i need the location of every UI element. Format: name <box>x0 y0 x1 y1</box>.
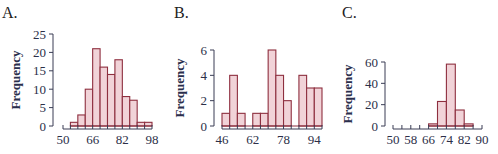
histogram-bar <box>307 88 315 126</box>
histogram-bar <box>222 113 230 126</box>
histogram-bar <box>108 74 115 126</box>
y-tick-label: 15 <box>33 63 46 78</box>
y-tick-label: 2 <box>201 93 208 108</box>
y-axis-label: Frequency <box>8 50 23 109</box>
histogram-bar <box>446 64 455 126</box>
y-axis-label: Frequency <box>340 64 355 123</box>
x-tick-label: 82 <box>116 132 129 147</box>
histogram-bar <box>455 110 464 126</box>
histogram-bar <box>276 75 284 126</box>
x-tick-label: 94 <box>308 132 322 147</box>
y-tick-label: 0 <box>201 119 208 134</box>
histogram-bar <box>145 122 152 126</box>
x-tick-label: 82 <box>458 132 471 147</box>
histogram-bar <box>268 50 276 126</box>
histogram-a: 051015202550668298Frequency <box>8 27 159 148</box>
histogram-bar <box>237 113 245 126</box>
x-tick-label: 46 <box>216 132 230 147</box>
y-tick-label: 0 <box>372 119 379 134</box>
histogram-b: 024646627894Frequency <box>172 43 322 148</box>
histogram-bar <box>438 101 447 126</box>
histogram-bar <box>122 97 129 126</box>
histogram-bar <box>299 75 307 126</box>
y-tick-label: 60 <box>365 55 378 70</box>
y-tick-label: 20 <box>33 45 46 60</box>
x-tick-label: 78 <box>277 132 290 147</box>
y-tick-label: 5 <box>40 100 47 115</box>
histogram-plots: 051015202550668298Frequency024646627894F… <box>0 0 498 154</box>
x-tick-label: 66 <box>86 132 100 147</box>
histogram-bar <box>137 122 144 126</box>
y-tick-label: 10 <box>33 82 46 97</box>
histogram-bar <box>93 49 100 126</box>
y-tick-label: 6 <box>201 43 208 58</box>
y-tick-label: 0 <box>40 119 47 134</box>
histogram-bar <box>314 88 322 126</box>
histogram-bar <box>100 67 107 126</box>
x-tick-label: 66 <box>422 132 436 147</box>
histogram-bar <box>115 60 122 126</box>
x-tick-label: 58 <box>404 132 417 147</box>
x-tick-label: 98 <box>146 132 159 147</box>
x-tick-label: 90 <box>476 132 489 147</box>
y-tick-label: 40 <box>365 76 378 91</box>
histogram-c: 0204060505866748290Frequency <box>340 55 489 148</box>
histogram-figure: A. B. C. 051015202550668298Frequency0246… <box>0 0 498 154</box>
histogram-bar <box>260 113 268 126</box>
x-tick-label: 74 <box>440 132 454 147</box>
histogram-bar <box>78 115 85 126</box>
histogram-bar <box>230 75 238 126</box>
histogram-bar <box>130 100 137 126</box>
y-tick-label: 25 <box>33 27 46 42</box>
y-tick-label: 20 <box>365 97 378 112</box>
y-axis-label: Frequency <box>172 58 187 117</box>
histogram-bar <box>85 89 92 126</box>
x-tick-label: 50 <box>387 132 400 147</box>
x-tick-label: 50 <box>57 132 70 147</box>
histogram-bar <box>253 113 261 126</box>
histogram-bar <box>70 122 77 126</box>
y-tick-label: 4 <box>201 68 208 83</box>
histogram-bar <box>284 101 292 126</box>
x-tick-label: 62 <box>246 132 259 147</box>
